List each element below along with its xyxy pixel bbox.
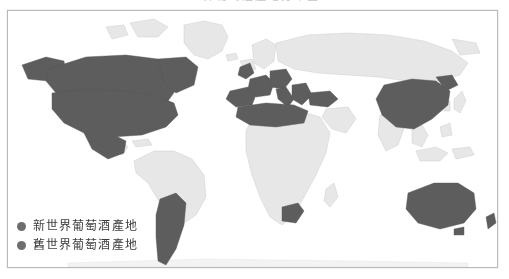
legend-swatch-new-world-circle-icon — [17, 222, 26, 231]
legend-item-old-world: 舊世界葡萄酒產地 — [17, 236, 138, 254]
legend-label-new-world: 新世界葡萄酒產地 — [33, 219, 138, 233]
legend-swatch-old-world-circle-icon — [17, 241, 26, 250]
figure-frame: 新世界葡萄酒產地 舊世界葡萄酒產地 — [7, 10, 498, 268]
map-legend: 新世界葡萄酒產地 舊世界葡萄酒產地 — [17, 217, 138, 255]
figure-title: 世界葡萄酒產地分布圖 — [0, 0, 509, 3]
legend-item-new-world: 新世界葡萄酒產地 — [17, 217, 138, 235]
legend-label-old-world: 舊世界葡萄酒產地 — [33, 238, 138, 252]
